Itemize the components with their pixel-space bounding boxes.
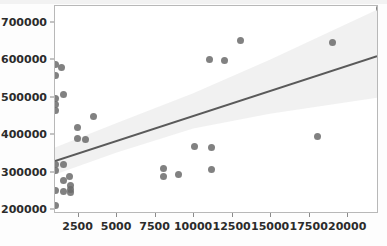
- scatter-point: [60, 188, 67, 195]
- scatter-point: [58, 64, 65, 71]
- x-tick-mark: [155, 213, 156, 217]
- scatter-point: [160, 165, 167, 172]
- figure-canvas: 200000300000400000500000600000700000 250…: [0, 0, 387, 246]
- x-tick-label: 15000: [251, 220, 289, 233]
- x-tick-mark: [270, 213, 271, 217]
- scatter-point: [60, 161, 67, 168]
- y-tick-mark: [50, 134, 54, 135]
- scatter-point: [175, 171, 182, 178]
- scatter-point: [314, 133, 321, 140]
- x-tick-label: 17500: [290, 220, 328, 233]
- x-tick-label: 10000: [174, 220, 212, 233]
- y-tick-label: 200000: [0, 203, 47, 216]
- scatter-point: [82, 136, 89, 143]
- y-tick-mark: [50, 59, 54, 60]
- x-tick-label: 7500: [139, 220, 170, 233]
- y-tick-mark: [50, 171, 54, 172]
- y-tick-mark: [50, 21, 54, 22]
- y-tick-mark: [50, 96, 54, 97]
- x-tick-label: 20000: [328, 220, 366, 233]
- y-tick-label: 400000: [0, 128, 47, 141]
- scatter-point: [208, 144, 215, 151]
- x-tick-mark: [116, 213, 117, 217]
- regression-line: [55, 6, 377, 212]
- figure-top-border: [0, 0, 387, 4]
- y-tick-mark: [50, 209, 54, 210]
- scatter-point: [206, 56, 213, 63]
- scatter-point: [60, 91, 67, 98]
- scatter-point: [67, 189, 74, 196]
- y-tick-label: 300000: [0, 165, 47, 178]
- x-tick-mark: [193, 213, 194, 217]
- scatter-point: [66, 173, 73, 180]
- x-tick-mark: [309, 213, 310, 217]
- x-tick-label: 12500: [212, 220, 250, 233]
- x-tick-label: 2500: [62, 220, 93, 233]
- x-tick-mark: [232, 213, 233, 217]
- scatter-point: [208, 166, 215, 173]
- x-tick-mark: [347, 213, 348, 217]
- x-tick-label: 5000: [101, 220, 132, 233]
- y-tick-label: 700000: [0, 15, 47, 28]
- plot-area: [54, 5, 378, 213]
- y-tick-label: 600000: [0, 53, 47, 66]
- x-tick-mark: [78, 213, 79, 217]
- scatter-point: [54, 107, 59, 114]
- y-tick-label: 500000: [0, 90, 47, 103]
